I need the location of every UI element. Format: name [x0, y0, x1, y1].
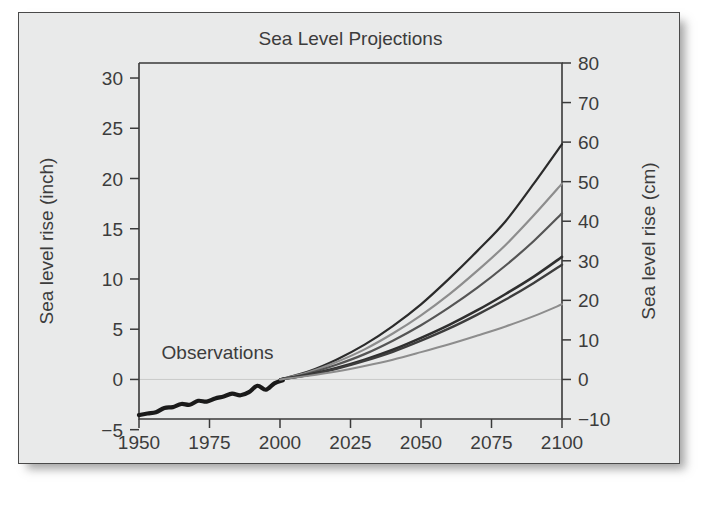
sea-level-projections-chart: 1950197520002025205020752100−50510152025… — [19, 13, 678, 462]
y-axis-right-tick-label: 30 — [578, 251, 599, 272]
y-axis-right-tick-label: 80 — [578, 53, 599, 74]
x-axis-tick-label: 2075 — [470, 432, 512, 453]
figure-root: 1950197520002025205020752100−50510152025… — [0, 0, 724, 520]
y-axis-right-tick-label: 50 — [578, 172, 599, 193]
x-axis-tick-label: 1950 — [118, 432, 160, 453]
y-axis-right-tick-label: 20 — [578, 290, 599, 311]
y-axis-left-tick-label: 20 — [102, 169, 123, 190]
projection-curve — [280, 144, 562, 379]
projection-curve — [280, 184, 562, 380]
y-axis-right-tick-label: 0 — [578, 369, 589, 390]
y-axis-left-tick-label: 0 — [112, 369, 123, 390]
y-axis-left-tick-label: 5 — [112, 319, 123, 340]
x-axis-tick-label: 1975 — [188, 432, 230, 453]
projection-curve — [280, 257, 562, 380]
y-axis-right-tick-label: 10 — [578, 330, 599, 351]
observations-annotation: Observations — [162, 342, 274, 363]
figure-panel: 1950197520002025205020752100−50510152025… — [18, 12, 680, 464]
y-axis-left-tick-label: 30 — [102, 68, 123, 89]
y-axis-left-title: Sea level rise (inch) — [36, 158, 57, 325]
y-axis-left-tick-label: −5 — [101, 420, 123, 441]
projection-curve — [280, 213, 562, 379]
x-axis-tick-label: 2000 — [259, 432, 301, 453]
x-axis-tick-label: 2025 — [329, 432, 371, 453]
x-axis-tick-label: 2050 — [400, 432, 442, 453]
y-axis-left-tick-label: 10 — [102, 269, 123, 290]
y-axis-right-tick-label: 40 — [578, 211, 599, 232]
y-axis-right-tick-label: 70 — [578, 93, 599, 114]
y-axis-right-tick-label: −10 — [578, 409, 610, 430]
x-axis-tick-label: 2100 — [541, 432, 583, 453]
observations-curve — [139, 380, 283, 415]
y-axis-left-tick-label: 15 — [102, 219, 123, 240]
y-axis-right-title: Sea level rise (cm) — [638, 162, 659, 319]
y-axis-right-tick-label: 60 — [578, 132, 599, 153]
y-axis-left-tick-label: 25 — [102, 118, 123, 139]
chart-title: Sea Level Projections — [259, 28, 443, 49]
